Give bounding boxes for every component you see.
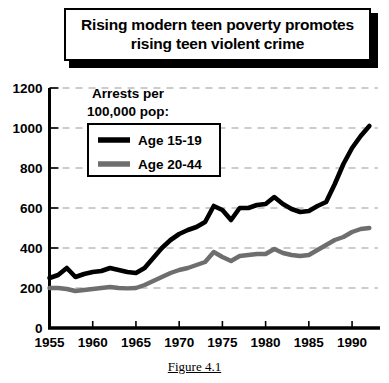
y-tick-label-800: 800 [20,161,43,176]
y-tick-label-600: 600 [20,201,43,216]
x-tick-label-1990: 1990 [337,335,367,350]
figure-caption: Figure 4.1 [0,359,389,375]
x-tick-label-1965: 1965 [121,335,152,350]
title-line-2: rising teen violent crime [131,35,304,52]
y-axis-tick-labels: 020040060080010001200 [12,81,42,336]
title-box: Rising modern teen poverty promotes risi… [64,8,371,61]
line-chart: 020040060080010001200 195519601965197019… [0,72,389,357]
page-title: Rising modern teen poverty promotes risi… [75,16,360,53]
chart-area: 020040060080010001200 195519601965197019… [0,72,389,357]
y-tick-label-0: 0 [35,321,43,336]
legend-label-adult: Age 20-44 [138,157,202,172]
figure-caption-text: Figure 4.1 [168,359,221,374]
y-tick-label-200: 200 [20,281,43,296]
x-tick-label-1960: 1960 [78,335,108,350]
x-axis-tick-labels: 19551960196519701975198019851990 [34,335,367,350]
x-tick-label-1955: 1955 [34,335,65,350]
series-line-adult [50,228,370,291]
x-tick-label-1975: 1975 [207,335,238,350]
x-tick-label-1985: 1985 [294,335,325,350]
y-tick-label-1000: 1000 [12,121,42,136]
figure-container: Rising modern teen poverty promotes risi… [0,0,389,383]
x-tick-label-1970: 1970 [164,335,194,350]
chart-legend: Arrests per100,000 pop:Age 15-19Age 20-4… [87,86,220,176]
legend-label-teen: Age 15-19 [138,133,202,148]
legend-heading-line-2: 100,000 pop: [87,104,169,119]
x-tick-label-1980: 1980 [251,335,281,350]
y-tick-label-1200: 1200 [12,81,42,96]
title-line-1: Rising modern teen poverty promotes [81,16,354,33]
legend-heading-line-1: Arrests per [92,86,165,101]
y-tick-label-400: 400 [20,241,43,256]
